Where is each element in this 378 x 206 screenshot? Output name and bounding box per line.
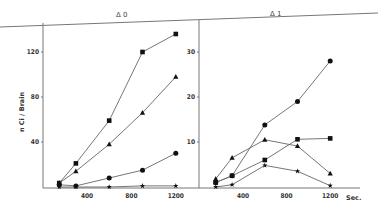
triangle-marker-icon: [262, 137, 267, 142]
x-tick-label: 1200: [322, 192, 338, 200]
star-marker-icon: [328, 183, 333, 188]
x-tick-label: 400: [81, 192, 93, 200]
series-line: [59, 77, 176, 183]
y-axis-title: n Ci / Brain: [18, 92, 26, 133]
square-marker-icon: [230, 173, 235, 178]
panel-label-1: Δ 1: [270, 10, 281, 18]
circle-marker-icon: [262, 122, 267, 127]
y-tick-label: 120: [27, 48, 39, 56]
y-tick-label: 30: [187, 48, 195, 56]
circle-marker-icon: [173, 151, 178, 156]
square-marker-icon: [328, 136, 333, 141]
x-tick-label: 400: [237, 192, 249, 200]
circle-marker-icon: [295, 99, 300, 104]
triangle-marker-icon: [73, 168, 78, 173]
x-tick-label: 1200: [168, 192, 184, 200]
series-circle: [213, 59, 332, 186]
square-marker-icon: [74, 161, 79, 166]
series-square: [57, 32, 178, 186]
square-marker-icon: [295, 137, 300, 142]
plot-canvas: Δ 0 Δ 1 n Ci / Brain Sec. 40801204008001…: [0, 0, 378, 206]
x-tick-label: 800: [125, 192, 137, 200]
y-tick-label: 80: [31, 93, 39, 101]
series-line: [59, 34, 176, 183]
x-tick-label: 800: [280, 192, 292, 200]
series-line: [59, 153, 176, 186]
series-circle: [57, 151, 179, 189]
square-marker-icon: [107, 118, 112, 123]
square-marker-icon: [140, 50, 145, 55]
y-tick-label: 20: [187, 93, 195, 101]
series-triangle: [57, 74, 179, 185]
triangle-marker-icon: [173, 74, 178, 79]
star-marker-icon: [229, 182, 234, 187]
circle-marker-icon: [107, 176, 112, 181]
square-marker-icon: [174, 32, 179, 37]
circle-marker-icon: [328, 59, 333, 64]
figure: Δ 0 Δ 1 n Ci / Brain Sec. 40801204008001…: [0, 0, 378, 206]
y-tick-label: 40: [31, 138, 39, 146]
y-tick-label: 10: [187, 138, 195, 146]
circle-marker-icon: [140, 168, 145, 173]
panel-label-0: Δ 0: [116, 11, 127, 19]
series-line: [216, 61, 330, 183]
top-border-line: [0, 13, 378, 27]
tick-labels: 408012040080012001020304008001200: [27, 48, 339, 200]
square-marker-icon: [263, 158, 268, 163]
x-axis-title: Sec.: [346, 194, 361, 202]
triangle-marker-icon: [230, 155, 235, 160]
